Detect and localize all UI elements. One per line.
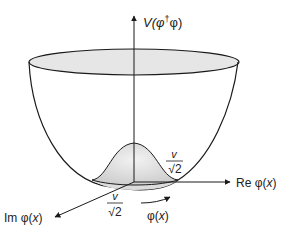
svg-text:v: v bbox=[171, 148, 178, 160]
im-axis-label: Im φ(x) bbox=[4, 211, 42, 225]
phi-arrow bbox=[141, 197, 170, 203]
potential-diagram: V(φ†φ) Re φ(x) Im φ(x) φ(x) v √2 v √2 bbox=[0, 0, 289, 232]
svg-text:v: v bbox=[112, 190, 119, 202]
vev-label-bottom: v √2 bbox=[107, 190, 123, 219]
vev-label-right: v √2 bbox=[166, 148, 183, 176]
im-axis bbox=[55, 182, 134, 217]
central-hump bbox=[92, 143, 178, 185]
v-axis-label: V(φ†φ) bbox=[143, 14, 182, 30]
phi-label: φ(x) bbox=[147, 209, 169, 223]
svg-text:√2: √2 bbox=[108, 205, 122, 219]
svg-text:√2: √2 bbox=[168, 162, 182, 176]
re-axis-label: Re φ(x) bbox=[236, 176, 276, 190]
